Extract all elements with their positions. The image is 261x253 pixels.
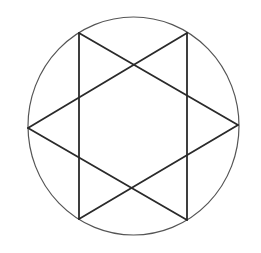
star-lines <box>28 33 238 220</box>
diagram-canvas <box>0 0 261 253</box>
segment-top-right-to-left <box>28 33 187 128</box>
hexagram-diagram <box>0 0 261 253</box>
segment-left-to-bottom-right <box>28 128 187 220</box>
segment-top-left-to-right <box>79 33 238 125</box>
circumscribed-circle <box>28 17 239 235</box>
